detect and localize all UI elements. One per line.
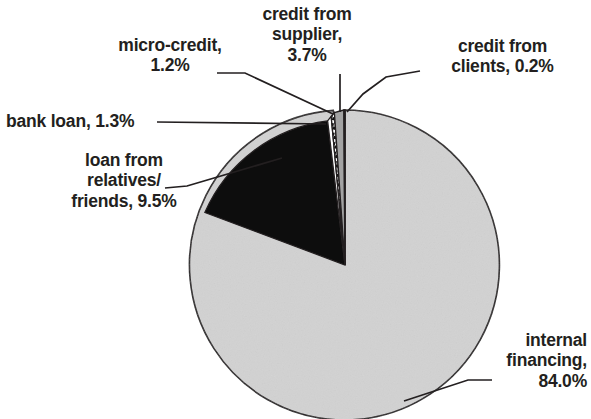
slice-label-internal-financing: internal financing, 84.0% (452, 330, 587, 391)
pie-chart-figure: credit from supplier, 3.7% micro-credit,… (0, 0, 591, 419)
slice-label-bank-loan: bank loan, 1.3% (6, 111, 166, 131)
pie-slice-credit-from-clients (344, 110, 345, 265)
slice-label-credit-from-supplier: credit from supplier, 3.7% (247, 4, 367, 65)
slice-label-loan-from-relatives-friends: loan from relatives/ friends, 9.5% (44, 150, 204, 211)
leader-line-micro-credit (217, 73, 333, 114)
slice-label-micro-credit: micro-credit, 1.2% (100, 35, 240, 76)
slice-label-credit-from-clients: credit from clients, 0.2% (420, 36, 585, 77)
leader-line-credit-from-clients (347, 71, 420, 112)
